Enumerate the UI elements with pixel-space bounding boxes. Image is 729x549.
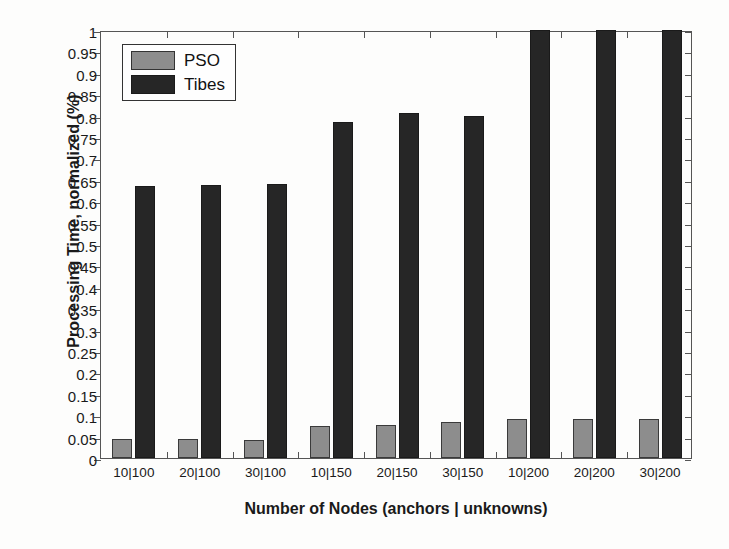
bar-tibes [333, 122, 353, 458]
bar-pso [112, 439, 132, 458]
bar-pso [639, 419, 659, 458]
legend-swatch-tibes [131, 75, 175, 94]
y-tick-label: 0.8 [7, 109, 97, 126]
y-tick-label: 0.75 [7, 131, 97, 148]
y-tick-label: 0.25 [7, 345, 97, 362]
y-tick-label: 0.45 [7, 259, 97, 276]
bar-pso [310, 426, 330, 458]
y-tick-label: 0.55 [7, 216, 97, 233]
x-tick-mark-top [430, 32, 431, 38]
y-tick-label: 0 [7, 452, 97, 469]
bar-tibes [135, 186, 155, 458]
y-tick-mark-right [685, 53, 691, 54]
y-tick-label: 0.15 [7, 387, 97, 404]
y-tick-mark-right [685, 139, 691, 140]
x-axis-title: Number of Nodes (anchors | unknowns) [100, 500, 692, 518]
y-tick-mark-right [685, 203, 691, 204]
figure: Processing Time, normalized (%) 00.050.1… [0, 0, 729, 549]
y-tick-label: 0.2 [7, 366, 97, 383]
chart-legend: PSO Tibes [122, 44, 236, 101]
x-tick-mark-top [627, 32, 628, 38]
y-tick-mark-right [685, 374, 691, 375]
y-tick-label: 0.7 [7, 152, 97, 169]
y-tick-mark-right [685, 225, 691, 226]
legend-item-pso: PSO [131, 51, 225, 70]
bar-tibes [201, 185, 221, 458]
y-tick-mark-right [685, 75, 691, 76]
plot-area: 00.050.10.150.20.250.30.350.40.450.50.55… [100, 31, 692, 459]
y-tick-label: 0.1 [7, 409, 97, 426]
y-tick-label: 0.85 [7, 88, 97, 105]
legend-label-tibes: Tibes [184, 76, 225, 93]
x-tick-mark [233, 452, 234, 458]
y-tick-label: 0.3 [7, 323, 97, 340]
y-tick-mark-right [685, 353, 691, 354]
bar-tibes [662, 30, 682, 458]
x-tick-mark-top [298, 32, 299, 38]
y-tick-mark-right [685, 439, 691, 440]
x-tick-mark [364, 452, 365, 458]
bar-pso [376, 425, 396, 458]
x-tick-mark-top [496, 32, 497, 38]
y-tick-label: 0.6 [7, 195, 97, 212]
x-tick-mark [430, 452, 431, 458]
y-tick-label: 0.9 [7, 66, 97, 83]
y-tick-label: 0.05 [7, 430, 97, 447]
y-tick-mark-right [685, 267, 691, 268]
y-tick-mark-right [685, 460, 691, 461]
x-tick-mark [496, 452, 497, 458]
bar-tibes [596, 30, 616, 458]
y-tick-mark-right [685, 96, 691, 97]
y-tick-mark-right [685, 118, 691, 119]
bar-pso [441, 422, 461, 458]
x-tick-mark [561, 452, 562, 458]
y-tick-mark-right [685, 332, 691, 333]
bar-tibes [464, 116, 484, 458]
y-tick-label: 1 [7, 24, 97, 41]
y-tick-mark-right [685, 310, 691, 311]
y-tick-label: 0.5 [7, 238, 97, 255]
legend-label-pso: PSO [184, 52, 220, 69]
legend-item-tibes: Tibes [131, 75, 225, 94]
bar-pso [573, 419, 593, 458]
x-tick-mark-top [561, 32, 562, 38]
y-tick-label: 0.4 [7, 280, 97, 297]
bar-pso [507, 419, 527, 458]
bar-tibes [530, 30, 550, 458]
y-tick-label: 0.95 [7, 45, 97, 62]
y-tick-mark-right [685, 246, 691, 247]
y-tick-label: 0.35 [7, 302, 97, 319]
x-tick-mark [167, 452, 168, 458]
y-tick-mark-right [685, 417, 691, 418]
bar-tibes [399, 113, 419, 458]
x-tick-mark [627, 452, 628, 458]
bar-pso [244, 440, 264, 458]
y-tick-mark-right [685, 396, 691, 397]
y-tick-mark-right [685, 160, 691, 161]
y-tick-mark-right [685, 182, 691, 183]
y-tick-mark-right [685, 289, 691, 290]
bar-tibes [267, 184, 287, 458]
x-tick-mark-top [233, 32, 234, 38]
x-tick-mark-top [167, 32, 168, 38]
legend-swatch-pso [131, 51, 175, 70]
x-tick-mark-top [364, 32, 365, 38]
y-tick-label: 0.65 [7, 173, 97, 190]
x-tick-mark [298, 452, 299, 458]
y-tick-mark-right [685, 32, 691, 33]
x-tick-label: 30|200 [620, 465, 700, 480]
bar-pso [178, 439, 198, 458]
